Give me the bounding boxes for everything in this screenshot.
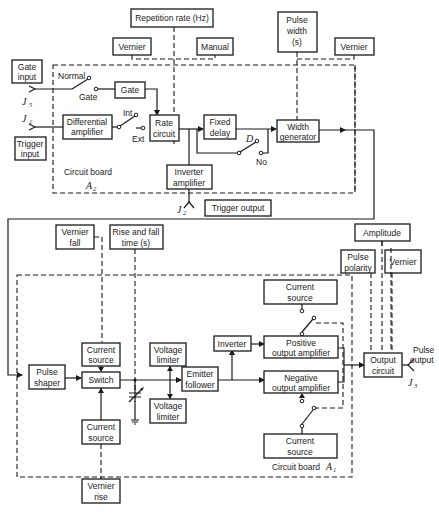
pos-switch-icon bbox=[302, 319, 313, 332]
vernier-rise-control: Vernier rise bbox=[82, 479, 120, 503]
svg-text:Voltage: Voltage bbox=[154, 345, 183, 355]
svg-text:Vernier: Vernier bbox=[88, 481, 115, 491]
amplitude-control: Amplitude bbox=[355, 224, 410, 241]
svg-text:rise: rise bbox=[94, 492, 108, 502]
svg-text:Pulse: Pulse bbox=[286, 15, 308, 25]
neg-switch-icon bbox=[302, 410, 313, 424]
svg-text:Current: Current bbox=[286, 436, 315, 446]
svg-text:2: 2 bbox=[93, 185, 97, 192]
svg-text:1: 1 bbox=[333, 466, 336, 473]
svg-text:Gate: Gate bbox=[121, 85, 140, 95]
svg-text:source: source bbox=[88, 433, 114, 443]
pulse-generator-diagram: Repetition rate (Hz) Vernier Manual Puls… bbox=[0, 0, 439, 514]
svg-text:Trigger output: Trigger output bbox=[212, 203, 265, 213]
svg-text:generator: generator bbox=[280, 132, 317, 142]
svg-text:input: input bbox=[21, 149, 40, 159]
svg-text:Rise and fall: Rise and fall bbox=[113, 227, 160, 237]
voltage-limiter-bottom-block: Voltage limiter bbox=[150, 399, 186, 423]
svg-text:Negative: Negative bbox=[284, 373, 318, 383]
trigger-input-label: Trigger input bbox=[15, 137, 46, 160]
pulse-width-control: Pulse width (s) bbox=[278, 12, 317, 52]
svg-text:Fixed: Fixed bbox=[210, 117, 231, 127]
output-circuit-block: Output circuit bbox=[364, 353, 402, 377]
svg-text:limiter: limiter bbox=[157, 412, 180, 422]
svg-text:amplifier: amplifier bbox=[71, 127, 103, 137]
svg-text:output: output bbox=[410, 355, 434, 365]
current-source-pos-block: Current source bbox=[264, 280, 337, 304]
svg-text:source: source bbox=[88, 355, 114, 365]
inverter-block: Inverter bbox=[214, 336, 251, 351]
svg-text:Circuit board: Circuit board bbox=[272, 462, 320, 472]
svg-text:J: J bbox=[22, 96, 27, 107]
svg-text:shaper: shaper bbox=[34, 378, 60, 388]
out-vernier-control: Vernier bbox=[385, 250, 421, 273]
svg-text:polarity: polarity bbox=[344, 263, 372, 273]
vernier-fall-control: Vernier fall bbox=[56, 225, 94, 249]
svg-text:Emitter: Emitter bbox=[187, 369, 214, 379]
pulse-shaper-block: Pulse shaper bbox=[29, 365, 65, 389]
width-vernier-control: Vernier bbox=[335, 38, 374, 55]
svg-text:circuit: circuit bbox=[372, 366, 395, 376]
current-source-top-block: Current source bbox=[82, 343, 120, 366]
svg-text:Output: Output bbox=[370, 355, 396, 365]
svg-text:Current: Current bbox=[87, 345, 116, 355]
svg-text:Pulse: Pulse bbox=[36, 367, 58, 377]
svg-text:Normal: Normal bbox=[58, 71, 86, 81]
svg-text:5: 5 bbox=[29, 101, 33, 108]
svg-text:Repetition rate (Hz): Repetition rate (Hz) bbox=[135, 13, 209, 23]
svg-text:Inverter: Inverter bbox=[175, 167, 204, 177]
svg-text:output amplifier: output amplifier bbox=[272, 383, 330, 393]
gate-block: Gate bbox=[115, 82, 145, 98]
svg-text:time (s): time (s) bbox=[122, 238, 151, 248]
rise-fall-time-control: Rise and fall time (s) bbox=[110, 225, 163, 249]
svg-text:amplifier: amplifier bbox=[173, 178, 205, 188]
switch-block: Switch bbox=[82, 372, 120, 388]
svg-text:Width: Width bbox=[287, 122, 309, 132]
svg-text:J: J bbox=[22, 113, 27, 124]
svg-text:A: A bbox=[325, 461, 333, 472]
svg-text:width: width bbox=[286, 26, 307, 36]
current-source-bottom-block: Current source bbox=[82, 420, 120, 444]
svg-text:Vernier: Vernier bbox=[62, 227, 89, 237]
svg-text:Trigger: Trigger bbox=[17, 139, 44, 149]
svg-text:A: A bbox=[85, 180, 93, 191]
svg-text:Gate: Gate bbox=[79, 92, 98, 102]
svg-text:Vernier: Vernier bbox=[390, 257, 417, 267]
svg-text:J: J bbox=[177, 204, 182, 215]
svg-text:Manual: Manual bbox=[201, 42, 229, 52]
svg-text:Current: Current bbox=[87, 422, 116, 432]
svg-text:source: source bbox=[287, 293, 313, 303]
svg-text:Ext: Ext bbox=[132, 134, 145, 144]
negative-output-amplifier-block: Negative output amplifier bbox=[264, 371, 338, 393]
differential-amplifier-block: Differential amplifier bbox=[63, 115, 112, 139]
inverter-amplifier-block: Inverter amplifier bbox=[167, 165, 212, 189]
svg-text:Differential: Differential bbox=[67, 117, 108, 127]
rep-vernier-control: Vernier bbox=[113, 38, 151, 55]
emitter-follower-block: Emitter follower bbox=[182, 367, 218, 391]
svg-text:J: J bbox=[408, 377, 413, 388]
voltage-limiter-top-block: Voltage limiter bbox=[150, 343, 186, 366]
svg-text:Voltage: Voltage bbox=[154, 401, 183, 411]
svg-text:Circuit board: Circuit board bbox=[64, 167, 112, 177]
fixed-delay-block: Fixed delay bbox=[204, 115, 236, 139]
svg-text:Switch: Switch bbox=[88, 375, 113, 385]
svg-text:follower: follower bbox=[185, 380, 214, 390]
current-source-neg-block: Current source bbox=[264, 434, 337, 458]
svg-text:Amplitude: Amplitude bbox=[363, 228, 401, 238]
svg-text:2: 2 bbox=[183, 209, 187, 216]
svg-text:Int: Int bbox=[123, 108, 133, 118]
svg-text:output amplifier: output amplifier bbox=[272, 348, 330, 358]
width-generator-block: Width generator bbox=[277, 120, 319, 142]
svg-text:3: 3 bbox=[413, 382, 418, 389]
svg-text:Vernier: Vernier bbox=[119, 42, 146, 52]
rate-circuit-block: Rate circuit bbox=[150, 115, 179, 141]
svg-text:source: source bbox=[287, 447, 313, 457]
svg-text:No: No bbox=[256, 157, 267, 167]
gate-input-label: Gate input bbox=[12, 60, 42, 83]
svg-text:Current: Current bbox=[286, 282, 315, 292]
svg-text:limiter: limiter bbox=[157, 355, 180, 365]
svg-text:Gate: Gate bbox=[18, 62, 37, 72]
svg-text:fall: fall bbox=[70, 238, 81, 248]
svg-text:Rate: Rate bbox=[155, 118, 173, 128]
j1-connector-icon bbox=[29, 124, 35, 130]
